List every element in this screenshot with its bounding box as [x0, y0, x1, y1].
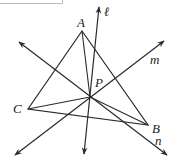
- label-line-m: m: [150, 52, 159, 67]
- label-line-l: ℓ: [104, 4, 110, 19]
- diagram-canvas: A B C P ℓ m n: [0, 0, 175, 165]
- segment-cp: [28, 97, 90, 109]
- label-line-n: n: [155, 133, 162, 148]
- line-n: [19, 42, 167, 155]
- line-m: [15, 41, 164, 155]
- label-p: P: [94, 75, 103, 90]
- label-a: A: [76, 15, 85, 30]
- frame-border: [0, 0, 63, 4]
- label-c: C: [13, 101, 22, 116]
